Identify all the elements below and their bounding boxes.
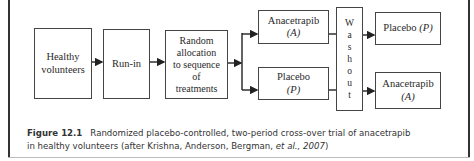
node-label: Anacetrapib	[382, 78, 433, 91]
node-washout: W a s h o u t	[336, 7, 363, 111]
washout-letter: o	[347, 65, 352, 77]
node-label: to sequence	[173, 59, 220, 71]
node-anacetrapib-period2: Anacetrapib (A)	[375, 72, 441, 109]
washout-letter: a	[347, 29, 351, 41]
washout-letter: s	[348, 41, 352, 53]
figure-label: Figure 12.1	[27, 128, 82, 138]
node-label: Anacetrapib	[268, 15, 319, 28]
washout-letter: W	[345, 17, 354, 29]
node-anacetrapib-period1: Anacetrapib (A)	[258, 10, 329, 44]
washout-letter: u	[347, 77, 352, 89]
node-label: Random	[173, 35, 220, 47]
node-healthy-volunteers: Healthy volunteers	[34, 28, 92, 99]
washout-letter: t	[348, 89, 351, 101]
node-placebo-period2: Placebo (P)	[375, 12, 441, 45]
node-label: Placebo	[277, 71, 310, 84]
node-run-in: Run-in	[103, 29, 150, 99]
node-code: (A)	[287, 27, 300, 38]
node-label: allocation	[173, 47, 220, 59]
node-label: volunteers	[41, 64, 85, 77]
node-code: (P)	[287, 84, 300, 95]
node-random-allocation: Random allocation to sequence of treatme…	[165, 30, 228, 99]
washout-letter: h	[347, 53, 352, 65]
figure-caption: Figure 12.1Randomized placebo-controlled…	[27, 127, 467, 152]
node-label: Placebo	[383, 22, 416, 33]
node-label: treatments	[173, 83, 220, 95]
node-label: Healthy	[41, 51, 85, 64]
node-label: Run-in	[112, 58, 141, 71]
node-code: (A)	[401, 91, 414, 102]
node-code: (P)	[419, 22, 432, 33]
caption-text-line1: Randomized placebo-controlled, two-perio…	[90, 128, 410, 138]
caption-text-line2: in healthy volunteers (after Krishna, An…	[27, 141, 276, 151]
caption-text-line2-end: )	[325, 141, 328, 151]
node-label: of	[173, 71, 220, 83]
node-placebo-period1: Placebo (P)	[258, 67, 329, 100]
caption-citation-italic: et al., 2007	[276, 141, 325, 151]
